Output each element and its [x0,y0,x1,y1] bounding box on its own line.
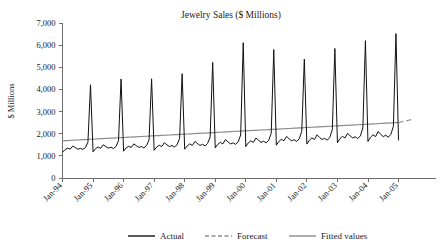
y-tick-label: 1,000 [36,151,55,161]
chart-title: Jewelry Sales ($ Millions) [181,10,281,21]
jewelry-sales-chart: Jewelry Sales ($ Millions) $ Millions 01… [0,0,442,250]
y-axis-title: $ Millions [6,83,16,118]
chart-legend: Actual Forecast Fitted values [128,231,368,241]
y-tick-label: 3,000 [36,107,55,117]
y-tick-label: 2,000 [36,129,55,139]
chart-background [0,0,442,250]
y-tick-label: 4,000 [36,84,55,94]
y-tick-label: 6,000 [36,40,55,50]
y-tick-label: 7,000 [36,18,55,28]
legend-label-actual: Actual [160,231,184,241]
chart-figure: Jewelry Sales ($ Millions) $ Millions 01… [0,0,442,250]
legend-label-forecast: Forecast [237,231,268,241]
y-tick-label: 5,000 [36,62,55,72]
legend-label-fitted-values: Fitted values [321,231,368,241]
